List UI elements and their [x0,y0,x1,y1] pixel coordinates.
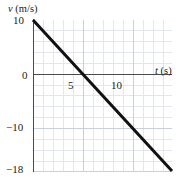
y-tick-label-0: 0 [22,70,28,81]
y-tick-label-minus-10: −10 [6,122,23,133]
y-tick-label-minus-18: −18 [6,164,23,175]
y-axis-title-unit: (m/s) [15,3,37,14]
x-axis-title-unit: (s) [161,65,172,76]
series-velocity-segment [33,20,172,171]
plot-area [33,20,172,172]
velocity-line-series [33,20,172,172]
x-axis-title: t (s) [155,66,172,77]
y-tick-label-10: 10 [13,15,24,26]
y-axis-title: v (m/s) [8,4,37,15]
x-tick-label-10: 10 [111,80,122,91]
x-tick-label-5: 5 [68,80,74,91]
velocity-time-graph-figure: v (m/s) t (s) 10 0 −10 −18 5 10 [0,0,188,177]
